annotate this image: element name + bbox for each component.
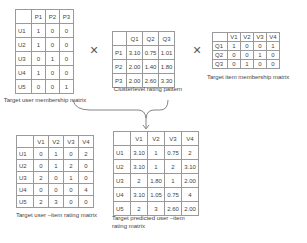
cell: 2 bbox=[64, 160, 79, 172]
cell: 0 bbox=[64, 148, 79, 160]
row-header: U3 bbox=[114, 174, 131, 188]
cell: 2 bbox=[34, 196, 49, 208]
cell: 1 bbox=[60, 80, 74, 94]
row-header: P1 bbox=[113, 46, 127, 60]
cell: 0.75 bbox=[165, 188, 182, 202]
cell: 0 bbox=[34, 184, 49, 196]
cell: 1 bbox=[64, 172, 79, 184]
cell: 0 bbox=[32, 80, 46, 94]
cell: 2.00 bbox=[182, 174, 199, 188]
row-header: U1 bbox=[17, 148, 34, 160]
column-header: Q1 bbox=[127, 32, 143, 46]
cell: 1 bbox=[267, 42, 280, 51]
user-item-rating-matrix: V1V2V3V4U10102U20120U32010U40004U52300 bbox=[16, 135, 94, 208]
cell: 0 bbox=[32, 52, 46, 66]
table-row: U3010 bbox=[16, 52, 74, 66]
cell: 1 bbox=[165, 174, 182, 188]
cluster-rating-matrix: Q1Q2Q3P13.100.751.01P22.001.401.80P32.00… bbox=[112, 31, 175, 88]
column-header: V3 bbox=[165, 132, 182, 146]
header-row: V1V2V3V4 bbox=[213, 33, 280, 42]
cell: 1 bbox=[46, 52, 60, 66]
cell: 3.10 bbox=[131, 160, 148, 174]
cell: 1 bbox=[254, 51, 267, 60]
cell: 2 bbox=[79, 148, 94, 160]
cell: 0 bbox=[46, 80, 60, 94]
user-membership-matrix: P1P2P3U1100U2100U3010U4100U5001 bbox=[15, 9, 74, 94]
table-row: U10102 bbox=[17, 148, 94, 160]
table-row: U23.10123.10 bbox=[114, 160, 199, 174]
cell: 0 bbox=[64, 196, 79, 208]
cell: 3 bbox=[49, 196, 64, 208]
table-row: Q11001 bbox=[213, 42, 280, 51]
cell: 1 bbox=[32, 66, 46, 80]
row-header: U2 bbox=[16, 38, 32, 52]
column-header: V1 bbox=[131, 132, 148, 146]
cell: 4 bbox=[182, 188, 199, 202]
cell: 0 bbox=[64, 184, 79, 196]
table-row: U321.8012.00 bbox=[114, 174, 199, 188]
table-row: U1100 bbox=[16, 24, 74, 38]
item-membership-matrix: V1V2V3V4Q11001Q20010Q30100 bbox=[212, 32, 280, 69]
row-header: U4 bbox=[17, 184, 34, 196]
cell: 1 bbox=[32, 24, 46, 38]
row-header: Q2 bbox=[213, 51, 228, 60]
table-row: U2100 bbox=[16, 38, 74, 52]
cell: 1 bbox=[49, 160, 64, 172]
row-header: Q3 bbox=[213, 60, 228, 69]
predicted-rating-matrix: V1V2V3V4U13.1010.752U23.10123.10U321.801… bbox=[113, 131, 199, 216]
cell: 1.80 bbox=[148, 174, 165, 188]
column-header: V3 bbox=[254, 33, 267, 42]
cluster-rating-caption: Clusterlevel rating pattern bbox=[108, 85, 188, 93]
cell: 1.40 bbox=[143, 60, 159, 74]
table-row: U40004 bbox=[17, 184, 94, 196]
cell: 0 bbox=[49, 184, 64, 196]
column-header: P1 bbox=[32, 10, 46, 24]
column-header bbox=[114, 132, 131, 146]
cell: 2 bbox=[182, 146, 199, 160]
cell: 2 bbox=[131, 174, 148, 188]
column-header: P3 bbox=[60, 10, 74, 24]
cell: 0 bbox=[79, 160, 94, 172]
cell: 0 bbox=[46, 38, 60, 52]
row-header: U1 bbox=[16, 24, 32, 38]
cell: 0 bbox=[46, 66, 60, 80]
cell: 3.10 bbox=[131, 146, 148, 160]
cell: 4 bbox=[79, 184, 94, 196]
column-header bbox=[17, 136, 34, 148]
predicted-rating-caption-line1: Target predicted user –item bbox=[112, 214, 212, 222]
cell: 0 bbox=[46, 24, 60, 38]
predicted-rating-caption: Target predicted user –item rating matri… bbox=[112, 214, 212, 230]
column-header: V4 bbox=[79, 136, 94, 148]
table-row: U20120 bbox=[17, 160, 94, 172]
table-row: U5001 bbox=[16, 80, 74, 94]
column-header: V2 bbox=[49, 136, 64, 148]
cell: 3.10 bbox=[127, 46, 143, 60]
cell: 1 bbox=[32, 38, 46, 52]
row-header: U2 bbox=[114, 160, 131, 174]
row-header: U3 bbox=[16, 52, 32, 66]
header-row: V1V2V3V4 bbox=[114, 132, 199, 146]
user-item-rating-caption: Target user –item rating matrix bbox=[16, 211, 106, 219]
cell: 0 bbox=[49, 172, 64, 184]
column-header bbox=[213, 33, 228, 42]
cell: 0 bbox=[60, 66, 74, 80]
column-header: Q2 bbox=[143, 32, 159, 46]
cell: 0 bbox=[60, 38, 74, 52]
cell: 0 bbox=[267, 51, 280, 60]
row-header: U4 bbox=[16, 66, 32, 80]
cell: 0 bbox=[228, 60, 241, 69]
table-row: U43.101.050.754 bbox=[114, 188, 199, 202]
cell: 0 bbox=[79, 172, 94, 184]
row-header: U1 bbox=[114, 146, 131, 160]
cell: 0 bbox=[254, 42, 267, 51]
cell: 0 bbox=[228, 51, 241, 60]
multiply-symbol: × bbox=[193, 43, 201, 57]
predicted-rating-caption-line2: rating matrix bbox=[112, 222, 212, 230]
column-header: Q3 bbox=[159, 32, 175, 46]
multiply-symbol: × bbox=[90, 43, 98, 57]
cell: 0 bbox=[60, 24, 74, 38]
column-header: V2 bbox=[148, 132, 165, 146]
row-header: P2 bbox=[113, 60, 127, 74]
column-header: V1 bbox=[34, 136, 49, 148]
cell: 1 bbox=[228, 42, 241, 51]
